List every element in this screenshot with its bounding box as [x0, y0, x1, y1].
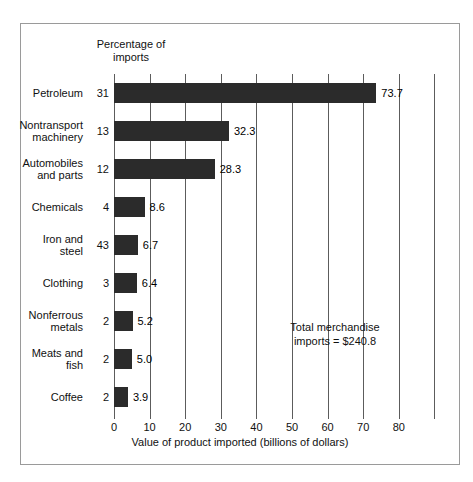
percentage-value: 3 — [83, 264, 109, 302]
bar-value-label: 6.7 — [143, 236, 158, 254]
category-label: Petroleum — [33, 87, 83, 100]
percentage-value: 43 — [83, 226, 109, 264]
category-label-row: Meats and fish — [21, 340, 83, 378]
bar — [114, 121, 229, 141]
category-label-row: Nontransport machinery — [21, 112, 83, 150]
x-tick-0 — [114, 409, 115, 419]
category-label-row: Chemicals — [21, 188, 83, 226]
bar-row: 73.7 — [114, 74, 441, 112]
category-label: Automobiles and parts — [22, 157, 83, 182]
bar-value-label: 5.2 — [138, 312, 153, 330]
chart-figure: Percentage of imports PetroleumNontransp… — [20, 23, 460, 465]
x-tick-30 — [221, 409, 222, 419]
x-tick-70 — [363, 409, 364, 419]
percentage-value: 2 — [83, 302, 109, 340]
percentage-value: 2 — [83, 340, 109, 378]
bar — [114, 273, 137, 293]
category-label: Nonferrous metals — [29, 309, 83, 334]
category-label-row: Automobiles and parts — [21, 150, 83, 188]
bar-value-label: 73.7 — [381, 84, 402, 102]
percentage-value: 13 — [83, 112, 109, 150]
plot-area: 73.732.328.38.66.76.45.25.03.9 — [114, 74, 441, 409]
x-tick-label: 30 — [215, 421, 227, 433]
category-label: Chemicals — [32, 201, 83, 214]
x-tick-60 — [328, 409, 329, 419]
percentage-value: 4 — [83, 188, 109, 226]
bar — [114, 311, 133, 331]
x-tick-label: 10 — [143, 421, 155, 433]
percentage-value: 12 — [83, 150, 109, 188]
bar-row: 8.6 — [114, 188, 441, 226]
bar — [114, 197, 145, 217]
bar-row: 28.3 — [114, 150, 441, 188]
x-tick-50 — [292, 409, 293, 419]
x-tick-label: 40 — [250, 421, 262, 433]
bar — [114, 83, 376, 103]
category-label: Clothing — [43, 277, 83, 290]
x-tick-label: 60 — [321, 421, 333, 433]
percentage-value: 2 — [83, 378, 109, 416]
x-tick-80 — [399, 409, 400, 419]
bar-value-label: 6.4 — [142, 274, 157, 292]
category-label-row: Petroleum — [21, 74, 83, 112]
bar-row: 6.4 — [114, 264, 441, 302]
bar-value-label: 32.3 — [234, 122, 255, 140]
x-axis-label: Value of product imported (billions of d… — [21, 436, 459, 448]
category-label-row: Clothing — [21, 264, 83, 302]
bar — [114, 349, 132, 369]
category-label-row: Nonferrous metals — [21, 302, 83, 340]
bar-row: 6.7 — [114, 226, 441, 264]
category-label-row: Iron and steel — [21, 226, 83, 264]
x-tick-40 — [256, 409, 257, 419]
bar-value-label: 5.0 — [137, 350, 152, 368]
category-label: Coffee — [51, 391, 83, 404]
category-label: Iron and steel — [21, 233, 83, 258]
x-tick-label: 70 — [357, 421, 369, 433]
category-label: Meats and fish — [32, 347, 83, 372]
x-tick-10 — [150, 409, 151, 419]
bar — [114, 235, 138, 255]
category-label-row: Coffee — [21, 378, 83, 416]
bar — [114, 159, 215, 179]
x-tick-label: 50 — [286, 421, 298, 433]
bar-row: 32.3 — [114, 112, 441, 150]
bar-value-label: 28.3 — [220, 160, 241, 178]
total-imports-annotation: Total merchandise imports = $240.8 — [267, 320, 403, 348]
bar-value-label: 8.6 — [150, 198, 165, 216]
category-label: Nontransport machinery — [19, 119, 83, 144]
percentage-value: 31 — [83, 74, 109, 112]
category-label-column: PetroleumNontransport machineryAutomobil… — [21, 74, 83, 409]
x-tick-label: 0 — [111, 421, 117, 433]
percentage-value-column: 3113124433222 — [83, 74, 109, 409]
x-tick-label: 80 — [393, 421, 405, 433]
bar — [114, 387, 128, 407]
x-tick-90 — [434, 409, 435, 419]
x-axis: 01020304050607080 — [114, 409, 441, 439]
bar-value-label: 3.9 — [133, 388, 148, 406]
percentage-column-header: Percentage of imports — [83, 38, 179, 64]
x-tick-20 — [185, 409, 186, 419]
x-tick-label: 20 — [179, 421, 191, 433]
